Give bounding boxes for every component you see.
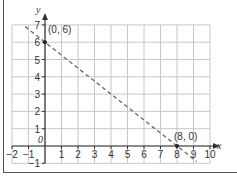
- y-tick-label: 4: [34, 72, 40, 83]
- point-annotation: (0, 6): [48, 24, 71, 35]
- y-tick-label: 6: [34, 37, 40, 48]
- x-tick-label: 3: [92, 149, 98, 160]
- x-tick-label: 10: [204, 149, 216, 160]
- origin-label: 0: [38, 134, 43, 145]
- y-tick-label: 3: [34, 89, 40, 100]
- chart-frame: −2−112345678910−11234567 (0, 6)(8, 0) x …: [0, 0, 237, 177]
- y-axis-label: y: [35, 4, 41, 15]
- data-point-marker: [43, 40, 47, 44]
- y-tick-label: 5: [34, 55, 40, 66]
- x-tick-label: 7: [158, 149, 164, 160]
- x-tick-label: −2: [6, 149, 18, 160]
- y-tick-label: −1: [29, 158, 41, 169]
- x-tick-label: 6: [141, 149, 147, 160]
- y-tick-label: 2: [34, 106, 40, 117]
- x-tick-label: 1: [59, 149, 65, 160]
- x-tick-label: 4: [108, 149, 114, 160]
- x-tick-label: 8: [174, 149, 180, 160]
- x-tick-label: 5: [125, 149, 131, 160]
- x-axis-label: x: [216, 140, 222, 151]
- y-axis-arrow-icon: [42, 13, 48, 20]
- data-point-marker: [175, 144, 179, 148]
- point-annotation: (8, 0): [174, 131, 197, 142]
- coordinate-plane-chart: −2−112345678910−11234567 (0, 6)(8, 0) x …: [0, 0, 237, 177]
- x-tick-label: 2: [75, 149, 81, 160]
- y-tick-label: 7: [34, 20, 40, 31]
- data-points: (0, 6)(8, 0): [43, 24, 197, 148]
